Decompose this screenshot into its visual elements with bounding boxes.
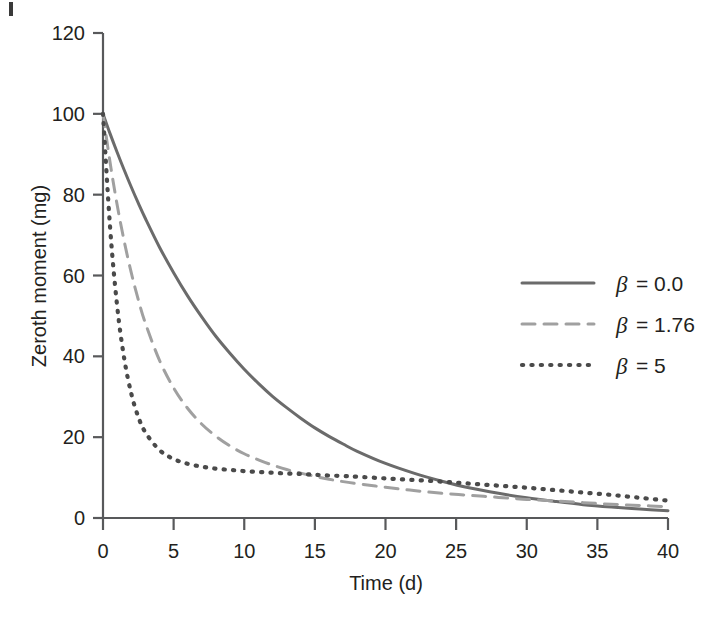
y-axis-title: Zeroth moment (mg) xyxy=(28,185,50,367)
figure-container: 020406080100120 0510152025303540 Zeroth … xyxy=(0,0,705,621)
legend-label-1: = 1.76 xyxy=(636,313,695,336)
legend-symbol-0: β xyxy=(615,272,628,297)
x-axis-title: Time (d) xyxy=(349,572,423,594)
y-tick-label: 60 xyxy=(63,265,85,287)
x-tick-label: 35 xyxy=(586,540,608,562)
x-tick-label: 10 xyxy=(233,540,255,562)
legend-label-2: = 5 xyxy=(636,354,666,377)
y-tick-label: 0 xyxy=(74,507,85,529)
y-tick-label: 100 xyxy=(52,103,85,125)
x-tick-label: 0 xyxy=(97,540,108,562)
legend-symbol-2: β xyxy=(615,354,628,379)
chart-svg: 020406080100120 0510152025303540 Zeroth … xyxy=(0,0,705,621)
curve-series-1 xyxy=(103,114,668,507)
data-curves-group xyxy=(103,114,668,511)
x-tick-label: 25 xyxy=(445,540,467,562)
x-tick-label: 5 xyxy=(168,540,179,562)
x-tick-label: 30 xyxy=(516,540,538,562)
chart-legend: β= 0.0β= 1.76β= 5 xyxy=(522,272,695,379)
x-tick-label: 15 xyxy=(304,540,326,562)
y-axis-ticks: 020406080100120 xyxy=(52,22,103,529)
legend-symbol-1: β xyxy=(615,313,628,338)
legend-label-0: = 0.0 xyxy=(636,272,683,295)
x-axis-ticks: 0510152025303540 xyxy=(97,518,679,562)
x-tick-label: 40 xyxy=(657,540,679,562)
page-corner-mark xyxy=(9,2,13,16)
y-tick-label: 20 xyxy=(63,426,85,448)
y-tick-label: 120 xyxy=(52,22,85,44)
x-tick-label: 20 xyxy=(374,540,396,562)
curve-series-0 xyxy=(103,114,668,511)
curve-series-2 xyxy=(103,114,668,501)
y-tick-label: 80 xyxy=(63,184,85,206)
y-tick-label: 40 xyxy=(63,345,85,367)
axes-group xyxy=(103,33,668,518)
